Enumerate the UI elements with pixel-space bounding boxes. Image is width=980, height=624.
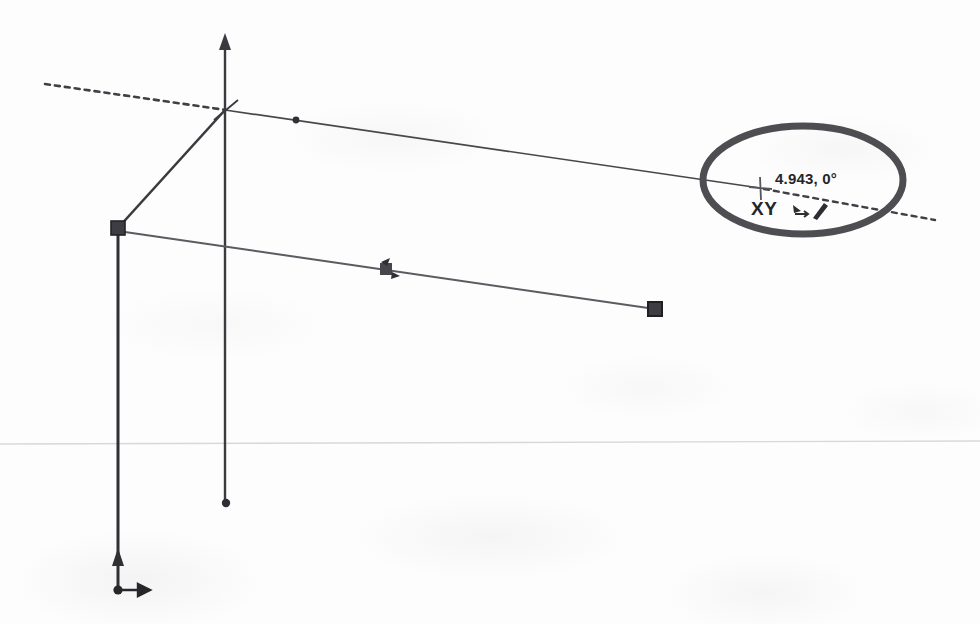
diagonal-brace[interactable]	[118, 110, 225, 228]
xy-construction-axis-dashed-left[interactable]	[45, 84, 226, 110]
crosshair-cursor-icon	[749, 177, 772, 200]
highlight-ellipse	[703, 126, 903, 234]
left-post-foot-arrow-icon	[120, 584, 150, 596]
xy-construction-axis-dashed-right[interactable]	[764, 189, 935, 220]
faint-horizon-line	[0, 441, 980, 444]
midpoint-snap-icon[interactable]	[380, 258, 400, 279]
endpoint-handle-upper-left[interactable]	[111, 221, 125, 235]
xy-construction-axis-solid[interactable]	[225, 110, 760, 188]
vertical-axis-arrowhead-icon	[219, 33, 231, 50]
left-post-arrowhead-icon	[112, 548, 124, 566]
upper-edge-marker-dot[interactable]	[293, 117, 300, 124]
endpoint-handle-lower-right[interactable]	[648, 302, 662, 316]
wireframe-scene[interactable]	[0, 0, 980, 624]
vertical-axis-end-dot	[222, 499, 230, 507]
cad-viewport[interactable]: 4.943, 0° XY	[0, 0, 980, 624]
